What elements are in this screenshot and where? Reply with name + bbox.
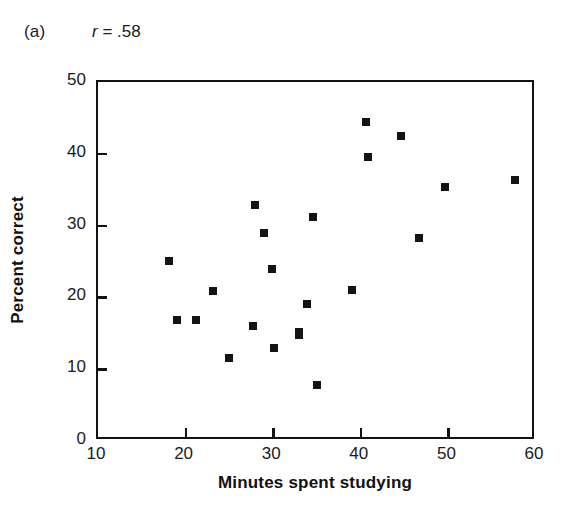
data-point-marker (251, 201, 259, 209)
data-point-marker (270, 344, 278, 352)
data-point-marker (249, 322, 257, 330)
data-point-marker (441, 183, 449, 191)
x-axis-tick-label: 40 (349, 444, 368, 464)
x-axis-tick-label: 50 (437, 444, 456, 464)
y-axis-tick-label: 30 (67, 214, 86, 234)
data-point-marker (295, 328, 303, 336)
plot-area (98, 82, 532, 437)
correlation-annotation: r = .58 (92, 22, 141, 42)
data-point-marker (415, 234, 423, 242)
y-axis-tick (98, 368, 107, 371)
data-point-marker (303, 300, 311, 308)
y-axis-tick-label: 10 (67, 357, 86, 377)
x-axis-tick-label: 60 (525, 444, 544, 464)
y-axis-tick (98, 225, 107, 228)
data-point-marker (313, 381, 321, 389)
panel-label: (a) (24, 22, 45, 42)
data-point-marker (192, 316, 200, 324)
y-axis-tick (98, 153, 107, 156)
data-point-marker (397, 132, 405, 140)
data-point-marker (165, 257, 173, 265)
x-axis-title: Minutes spent studying (96, 473, 534, 493)
y-axis-title: Percent correct (0, 80, 36, 439)
y-axis-tick-label: 40 (67, 142, 86, 162)
data-point-marker (511, 176, 519, 184)
data-point-marker (173, 316, 181, 324)
y-axis-tick-label: 0 (77, 429, 86, 449)
correlation-value-text: = .58 (98, 22, 141, 41)
x-axis-tick (185, 428, 188, 437)
y-axis-tick (98, 296, 107, 299)
data-point-marker (309, 213, 317, 221)
x-axis-tick (272, 428, 275, 437)
scatter-plot-figure: (a) r = .58 Percent correct 102030405060… (0, 0, 572, 524)
x-axis-tick-label: 10 (87, 444, 106, 464)
y-axis-tick-label: 20 (67, 285, 86, 305)
data-point-marker (260, 229, 268, 237)
data-point-marker (364, 153, 372, 161)
data-point-marker (225, 354, 233, 362)
y-axis-tick-label: 50 (67, 70, 86, 90)
data-point-marker (209, 287, 217, 295)
x-axis-tick (447, 428, 450, 437)
y-axis-title-text: Percent correct (8, 196, 28, 324)
plot-frame (96, 80, 534, 439)
data-point-marker (362, 118, 370, 126)
x-axis-tick-label: 20 (174, 444, 193, 464)
data-point-marker (348, 286, 356, 294)
data-point-marker (268, 265, 276, 273)
x-axis-tick-label: 30 (262, 444, 281, 464)
x-axis-tick (360, 428, 363, 437)
